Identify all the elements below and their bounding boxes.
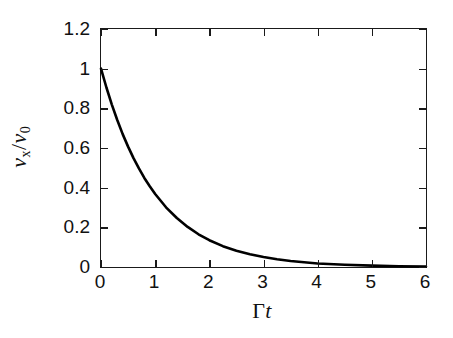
y-tick-left-6: [101, 29, 108, 30]
x-tick-top-4: [318, 29, 319, 36]
y-tick-label-6: 1.2: [42, 19, 90, 38]
y-tick-left-5: [101, 69, 108, 70]
x-tick-top-5: [372, 29, 373, 36]
y-axis-title: vx/v0: [6, 126, 34, 167]
x-tick-bottom-3: [264, 260, 265, 267]
y-tick-label-3: 0.6: [42, 138, 90, 157]
y-tick-label-1: 0.2: [42, 217, 90, 236]
x-axis-title: Γt: [252, 298, 271, 324]
y-axis-title-sub-x: x: [18, 151, 33, 158]
y-tick-left-0: [101, 267, 108, 268]
y-tick-right-1: [419, 227, 426, 228]
y-axis-title-v: v: [6, 158, 31, 168]
x-axis-title-t: t: [265, 298, 271, 323]
x-tick-top-3: [264, 29, 265, 36]
curve-svg: [101, 29, 426, 267]
x-axis-title-gamma: Γ: [252, 298, 265, 323]
x-tick-label-3: 3: [257, 272, 268, 291]
x-tick-bottom-2: [209, 260, 210, 267]
x-tick-bottom-5: [372, 260, 373, 267]
y-axis-title-v0: v: [6, 134, 31, 144]
x-tick-label-5: 5: [366, 272, 377, 291]
y-tick-label-4: 0.8: [42, 98, 90, 117]
y-tick-right-0: [419, 267, 426, 268]
y-tick-left-2: [101, 188, 108, 189]
y-tick-right-3: [419, 148, 426, 149]
y-tick-left-1: [101, 227, 108, 228]
x-tick-label-1: 1: [149, 272, 160, 291]
y-tick-label-5: 1: [42, 58, 90, 77]
y-tick-right-5: [419, 69, 426, 70]
x-tick-label-0: 0: [95, 272, 106, 291]
x-tick-label-2: 2: [203, 272, 214, 291]
y-tick-label-0: 0: [42, 257, 90, 276]
x-tick-bottom-0: [101, 260, 102, 267]
x-tick-label-6: 6: [420, 272, 431, 291]
x-tick-top-6: [426, 29, 427, 36]
x-tick-label-4: 4: [311, 272, 322, 291]
figure-canvas: 0123456 00.20.40.60.811.2 Γt vx/v0: [0, 0, 453, 338]
y-axis-title-sub-0: 0: [18, 126, 33, 133]
y-tick-left-3: [101, 148, 108, 149]
plot-area: [100, 28, 427, 268]
y-tick-label-2: 0.4: [42, 177, 90, 196]
y-tick-right-2: [419, 188, 426, 189]
x-tick-bottom-1: [155, 260, 156, 267]
x-tick-bottom-4: [318, 260, 319, 267]
y-tick-right-6: [419, 29, 426, 30]
y-tick-left-4: [101, 108, 108, 109]
x-tick-top-2: [209, 29, 210, 36]
y-tick-right-4: [419, 108, 426, 109]
decay-curve-path: [101, 69, 426, 267]
x-tick-top-1: [155, 29, 156, 36]
x-tick-bottom-6: [426, 260, 427, 267]
y-axis-title-slash: /: [6, 144, 31, 150]
